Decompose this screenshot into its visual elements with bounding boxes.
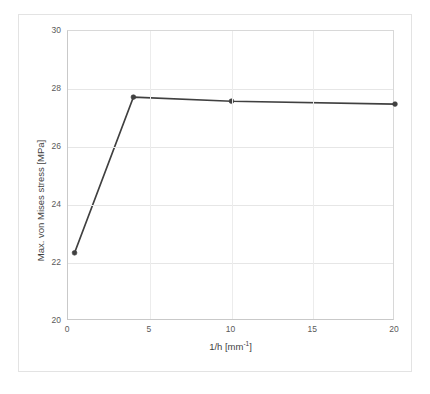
- x-axis-tick-label: 10: [211, 325, 251, 334]
- y-axis-tick-labels: 202224262830: [27, 30, 61, 320]
- x-axis-tick-label: 20: [374, 325, 414, 334]
- data-point-marker: [393, 102, 398, 107]
- x-axis-title-tail: ]: [249, 341, 252, 352]
- gridline-vertical: [232, 31, 233, 319]
- y-axis-tick-label: 28: [31, 84, 61, 93]
- gridline-horizontal: [68, 263, 393, 264]
- gridline-horizontal: [68, 147, 393, 148]
- x-axis-title: 1/h [mm-1]: [67, 341, 394, 352]
- gridline-vertical: [313, 31, 314, 319]
- y-axis-tick-label: 24: [31, 200, 61, 209]
- x-axis-tick-label: 0: [47, 325, 87, 334]
- x-axis-title-main: 1/h [mm: [209, 341, 243, 352]
- x-axis-tick-labels: 05101520: [67, 325, 394, 339]
- chart-figure: Max. von Mises stress [MPa] 202224262830…: [0, 0, 430, 394]
- plot-area: [67, 30, 394, 320]
- gridline-vertical: [150, 31, 151, 319]
- y-axis-tick-label: 26: [31, 142, 61, 151]
- y-axis-tick-label: 30: [31, 26, 61, 35]
- series-line: [75, 97, 395, 253]
- x-axis-tick-label: 15: [292, 325, 332, 334]
- data-point-marker: [131, 95, 136, 100]
- x-axis-tick-label: 5: [129, 325, 169, 334]
- y-axis-tick-label: 22: [31, 258, 61, 267]
- gridline-horizontal: [68, 205, 393, 206]
- y-axis-tick-label: 20: [31, 316, 61, 325]
- gridline-horizontal: [68, 89, 393, 90]
- data-point-marker: [72, 250, 77, 255]
